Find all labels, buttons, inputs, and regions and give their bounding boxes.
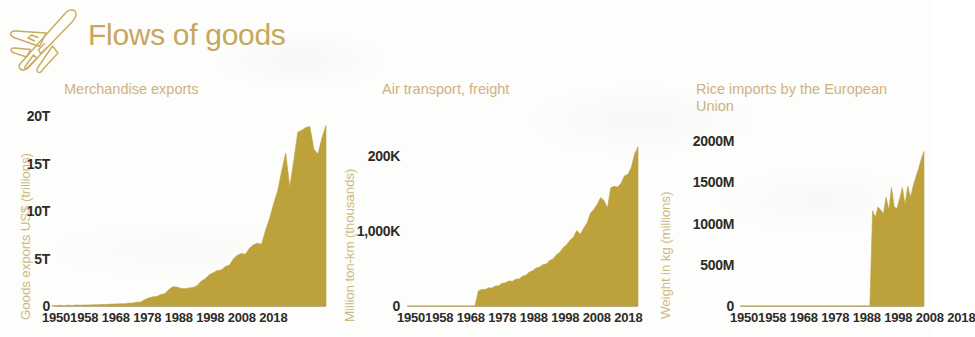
y-tick-0: 0 xyxy=(334,298,400,314)
plot-area xyxy=(52,116,326,306)
plot-area xyxy=(407,134,638,306)
page-header: Flows of goods xyxy=(0,0,931,76)
x-axis-tick-labels: 19501958 1968 1978 1988 1998 2008 2018 xyxy=(730,310,975,325)
y-tick-1000K: 1,000K xyxy=(334,223,400,239)
chart-title: Rice imports by the European Union xyxy=(696,81,931,115)
y-tick-5T: 5T xyxy=(12,251,50,267)
area-series xyxy=(52,126,326,307)
plot-area xyxy=(740,141,924,306)
area-series xyxy=(740,152,924,307)
y-tick-0: 0 xyxy=(666,298,734,314)
y-tick-20T: 20T xyxy=(12,108,50,124)
y-tick-500M: 500M xyxy=(666,257,734,273)
y-axis-title: Goods exports US$ (trillions) xyxy=(18,153,33,320)
y-tick-200K: 200K xyxy=(334,148,400,164)
chart-panel-rice-imports-eu: Rice imports by the European Union Weigh… xyxy=(652,76,931,337)
y-tick-1000M: 1000M xyxy=(666,216,734,232)
y-tick-2000M: 2000M xyxy=(666,133,734,149)
chart-panel-air-transport-freight: Air transport, freight Million ton-km (t… xyxy=(334,76,652,337)
y-tick-15T: 15T xyxy=(12,156,50,172)
x-axis-tick-labels: 19501958 1968 1978 1988 1998 2008 2018 xyxy=(42,310,287,325)
page-title: Flows of goods xyxy=(88,18,286,52)
chart-title: Air transport, freight xyxy=(382,81,632,98)
x-axis-tick-labels: 19501958 1968 1978 1988 1998 2008 2018 xyxy=(397,310,642,325)
y-tick-10T: 10T xyxy=(12,203,50,219)
chart-title: Merchandise exports xyxy=(64,81,314,98)
airplane-icon xyxy=(6,6,80,74)
area-series xyxy=(407,147,638,306)
y-tick-1500M: 1500M xyxy=(666,174,734,190)
chart-panel-merchandise-exports: Merchandise exports Goods exports US$ (t… xyxy=(4,76,334,337)
